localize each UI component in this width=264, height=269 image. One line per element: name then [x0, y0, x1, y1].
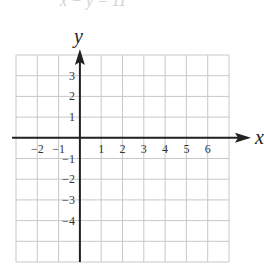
- y-tick-label: 2: [69, 89, 75, 103]
- x-tick-label: 5: [183, 142, 189, 156]
- x-tick-label: 4: [162, 142, 168, 156]
- coordinate-plane: xy−2−1123456321−1−2−3−4: [0, 0, 264, 269]
- y-tick-label: −3: [62, 193, 75, 207]
- x-tick-label: −2: [31, 142, 44, 156]
- y-tick-label: 3: [69, 69, 75, 83]
- x-axis-label: x: [254, 126, 264, 148]
- y-tick-label: −2: [62, 172, 75, 186]
- y-axis-label: y: [72, 25, 83, 48]
- y-tick-label: −4: [62, 214, 75, 228]
- x-tick-label: 1: [98, 142, 104, 156]
- x-tick-label: 3: [141, 142, 147, 156]
- y-tick-label: 1: [69, 110, 75, 124]
- x-tick-label: 6: [205, 142, 211, 156]
- x-tick-label: 2: [120, 142, 126, 156]
- y-tick-label: −1: [62, 152, 75, 166]
